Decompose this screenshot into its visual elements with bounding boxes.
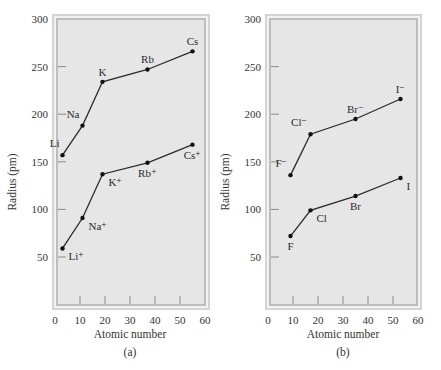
data-point-label: Li (50, 137, 60, 149)
chart-panel-b: 501001502002503000102030405060Atomic num… (219, 13, 424, 359)
y-tick-label: 100 (245, 203, 262, 215)
x-tick-label: 10 (288, 314, 300, 326)
panel-caption: (b) (336, 346, 350, 359)
data-point-label: Br⁻ (347, 103, 364, 115)
data-point (398, 97, 402, 101)
data-point (60, 246, 64, 250)
y-tick-label: 150 (245, 156, 262, 168)
y-tick-label: 300 (32, 13, 49, 25)
data-point (100, 80, 104, 84)
y-axis-title: Radius (pm) (219, 153, 232, 210)
y-tick-label: 100 (32, 203, 49, 215)
plot-area (271, 20, 416, 304)
data-point (353, 117, 357, 121)
data-point-label: K (99, 66, 107, 78)
x-tick-label: 20 (313, 314, 325, 326)
data-point (145, 161, 149, 165)
x-tick-label: 40 (150, 314, 162, 326)
x-tick-label: 30 (125, 314, 137, 326)
data-point (145, 67, 149, 71)
y-tick-label: 300 (245, 13, 262, 25)
y-tick-label: 250 (245, 61, 262, 73)
data-point (308, 132, 312, 136)
data-point-label: Cl⁻ (291, 116, 307, 128)
data-point (190, 49, 194, 53)
data-point-label: I⁻ (396, 83, 406, 95)
y-tick-label: 200 (245, 108, 262, 120)
y-tick-label: 200 (32, 108, 49, 120)
data-point (288, 234, 292, 238)
data-point-label: Cl (317, 212, 327, 224)
data-point-label: Rb⁺ (138, 167, 157, 179)
x-tick-label: 60 (413, 314, 425, 326)
data-point-label: I (407, 180, 411, 192)
x-tick-label: 50 (175, 314, 187, 326)
data-point (100, 172, 104, 176)
x-tick-label: 40 (363, 314, 375, 326)
x-tick-label: 10 (75, 314, 87, 326)
data-point-label: Li⁺ (69, 250, 85, 262)
data-point-label: Na (67, 108, 80, 120)
x-tick-label: 0 (265, 314, 271, 326)
data-point-label: Cs⁺ (184, 149, 202, 161)
data-point-label: Cs (187, 35, 199, 47)
data-point-label: Br (350, 200, 361, 212)
data-point (353, 194, 357, 198)
data-point (398, 176, 402, 180)
x-axis-title: Atomic number (94, 328, 167, 340)
data-point-label: F (287, 240, 293, 252)
data-point (80, 123, 84, 127)
data-point (308, 208, 312, 212)
x-axis-title: Atomic number (307, 328, 380, 340)
data-point-label: Na⁺ (89, 220, 108, 232)
y-tick-label: 50 (37, 251, 49, 263)
data-point-label: Rb (141, 53, 154, 65)
chart-panel-a: 501001502002503000102030405060Atomic num… (6, 13, 211, 359)
x-tick-label: 30 (338, 314, 350, 326)
y-tick-label: 50 (250, 251, 262, 263)
x-tick-label: 20 (100, 314, 112, 326)
atomic-radius-charts: 501001502002503000102030405060Atomic num… (0, 0, 441, 370)
data-point-label: K⁺ (109, 176, 123, 188)
data-point (80, 216, 84, 220)
x-tick-label: 60 (200, 314, 212, 326)
x-tick-label: 50 (388, 314, 400, 326)
y-axis-title: Radius (pm) (6, 153, 19, 210)
data-point (288, 173, 292, 177)
data-point (190, 142, 194, 146)
y-tick-label: 150 (32, 156, 49, 168)
figure: 501001502002503000102030405060Atomic num… (0, 0, 441, 370)
data-point (60, 153, 64, 157)
data-point-label: F⁻ (275, 157, 287, 169)
y-tick-label: 250 (32, 61, 49, 73)
panel-caption: (a) (124, 346, 137, 359)
x-tick-label: 0 (52, 314, 58, 326)
